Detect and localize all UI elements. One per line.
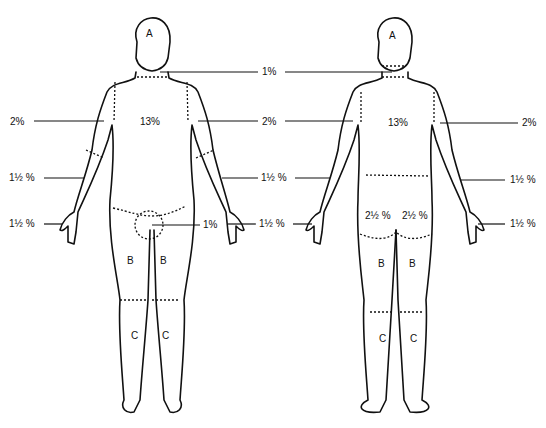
neck-label: 1%	[262, 66, 276, 78]
front-leg-left-label: C	[131, 330, 138, 342]
front-trunk-label: 13%	[140, 116, 160, 128]
back-thigh-left-label: B	[378, 258, 385, 270]
body-diagram	[0, 0, 546, 428]
back-leg-right-label: C	[410, 333, 417, 345]
front-hand-left-label: 1½ %	[9, 218, 35, 230]
front-leg-right-label: C	[162, 330, 169, 342]
back-thigh-right-label: B	[409, 258, 416, 270]
back-leg-left-label: C	[379, 333, 386, 345]
genitalia-label: 1%	[203, 219, 217, 231]
front-thigh-right-label: B	[160, 255, 167, 267]
back-upper-arm-right-label: 2%	[522, 117, 536, 129]
back-buttock-right-label: 2½ %	[402, 210, 428, 222]
front-thigh-left-label: B	[127, 255, 134, 267]
front-forearm-right-label: 1½ %	[261, 172, 287, 184]
back-buttock-left-label: 2½ %	[365, 210, 391, 222]
front-figure	[60, 18, 244, 412]
back-head-label: A	[389, 30, 396, 42]
front-hand-right-label: 1½ %	[259, 218, 285, 230]
back-forearm-right-label: 1½ %	[510, 174, 536, 186]
front-upper-arm-left-label: 2%	[10, 116, 24, 128]
back-hand-right-label: 1½ %	[510, 218, 536, 230]
front-head-label: A	[146, 28, 153, 40]
front-upper-arm-right-label: 2%	[262, 116, 276, 128]
back-trunk-label: 13%	[388, 117, 408, 129]
front-forearm-left-label: 1½ %	[9, 172, 35, 184]
